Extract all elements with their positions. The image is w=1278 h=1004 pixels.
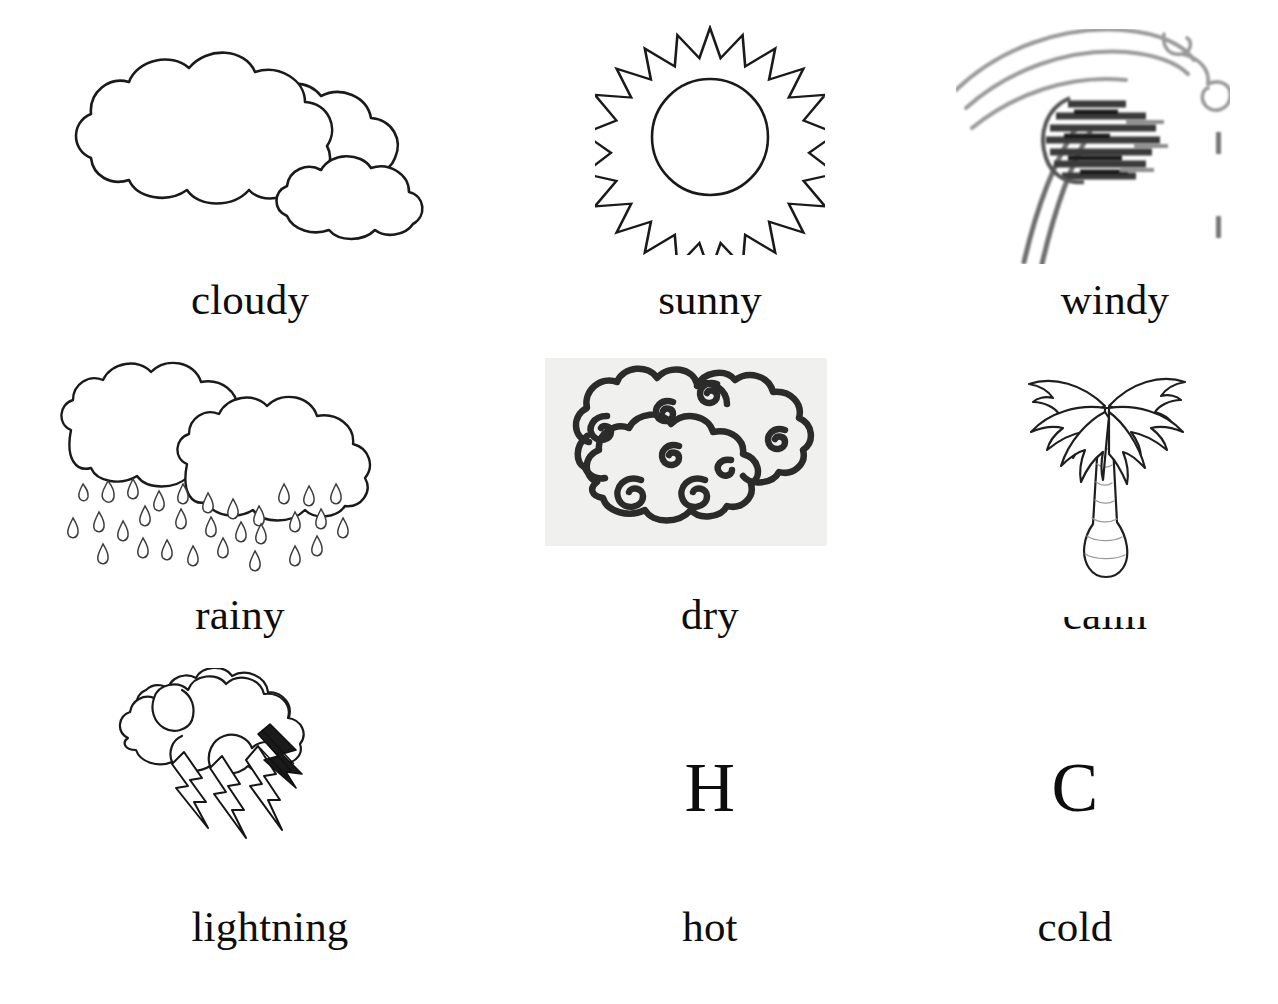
label-windy: windy xyxy=(965,278,1265,321)
wind-bending-tree-icon xyxy=(950,12,1230,272)
label-dry: dry xyxy=(560,593,860,636)
stylized-swirl-cloud-icon xyxy=(545,358,827,546)
label-cold: cold xyxy=(925,905,1225,948)
clouds-icon xyxy=(55,40,435,260)
dry-illustration xyxy=(545,358,827,546)
cloudy-illustration xyxy=(55,40,435,260)
windy-illustration xyxy=(950,12,1230,272)
rainy-illustration xyxy=(55,360,405,590)
calm-illustration xyxy=(1005,362,1205,612)
label-lightning: lightning xyxy=(70,905,470,948)
lightning-illustration xyxy=(110,668,340,868)
sunny-illustration xyxy=(595,25,825,255)
letter-c-glyph: C xyxy=(925,753,1225,823)
sun-icon xyxy=(595,25,825,255)
label-hot: hot xyxy=(560,905,860,948)
rain-cloud-icon xyxy=(55,360,405,590)
letter-h-glyph: H xyxy=(560,753,860,823)
label-sunny: sunny xyxy=(560,278,860,321)
thunder-cloud-icon xyxy=(110,668,340,868)
label-cloudy: cloudy xyxy=(100,278,400,321)
worksheet-canvas: cloudy sunny xyxy=(0,0,1278,1004)
label-rainy: rainy xyxy=(90,593,390,636)
palm-tree-icon xyxy=(1005,362,1205,612)
